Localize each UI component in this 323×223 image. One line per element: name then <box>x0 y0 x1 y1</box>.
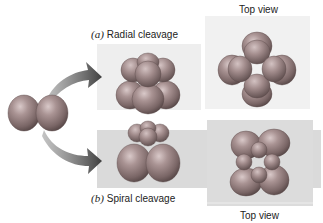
radial-cleavage-side-view <box>116 53 180 114</box>
spiral-top-view-label: Top view <box>240 211 279 221</box>
radial-cleavage-label: (a)Radial cleavage <box>91 29 178 40</box>
cleavage-figure: Top view (a)Radial cleavage (b)Spiral cl… <box>0 0 323 223</box>
radial-top-view-label: Top view <box>239 5 278 15</box>
spiral-panel-tag: (b) <box>91 192 104 204</box>
spiral-cleavage-label: (b)Spiral cleavage <box>91 193 175 204</box>
radial-panel-tag: (a) <box>91 28 104 40</box>
two-cell-embryo <box>8 95 68 131</box>
radial-panel-title: Radial cleavage <box>107 29 178 40</box>
spiral-top-view-background <box>207 120 313 206</box>
arrow-to-spiral-icon <box>42 130 102 174</box>
spiral-panel-title: Spiral cleavage <box>107 193 175 204</box>
